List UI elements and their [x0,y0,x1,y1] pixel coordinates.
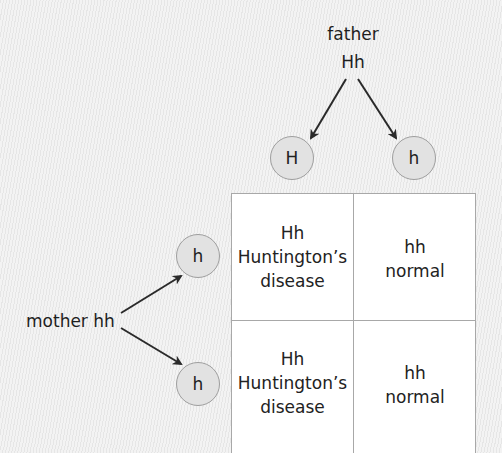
punnett-cell-r1c1: Hh Huntington’s disease [232,194,353,320]
mother-gamete-1: h [176,234,220,278]
punnett-cell-r2c1: Hh Huntington’s disease [232,321,353,445]
father-label: father [323,20,383,48]
punnett-cell-r2c2: hh normal [354,321,476,445]
cell-phenotype-cont: disease [260,269,325,293]
father-to-gamete-H-arrow [311,79,346,138]
father-gamete-H: H [270,136,314,180]
father-gamete-h: h [392,136,436,180]
cell-phenotype: Huntington’s [238,371,347,395]
cell-phenotype: normal [385,259,445,283]
mother-to-gamete-2-arrow [121,328,181,364]
punnett-cell-r1c2: hh normal [354,194,476,320]
cell-genotype: Hh [281,347,305,371]
cell-genotype: hh [404,361,426,385]
cell-phenotype: normal [385,385,445,409]
mother-to-gamete-1-arrow [121,276,181,313]
cell-phenotype-cont: disease [260,395,325,419]
father-genotype: Hh [323,48,383,76]
mother-gamete-2: h [176,362,220,406]
father-to-gamete-h-arrow [358,79,396,138]
cell-genotype: hh [404,235,426,259]
punnett-square: Hh Huntington’s disease hh normal Hh Hun… [231,193,476,453]
cell-genotype: Hh [281,221,305,245]
cell-phenotype: Huntington’s [238,245,347,269]
mother-label: mother hh [26,307,115,335]
